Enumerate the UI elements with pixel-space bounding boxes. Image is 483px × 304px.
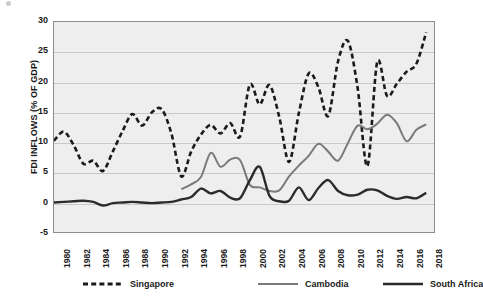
x-tick-label: 2018 [434,249,444,268]
legend-swatch-icon [83,279,123,289]
x-tick-label: 1988 [140,249,150,268]
legend-swatch-icon [258,279,298,289]
x-tick-label: 1982 [82,249,92,268]
x-tick-label: 2000 [258,249,268,268]
x-tick-label: 2008 [336,249,346,268]
plot-area [53,21,435,233]
x-tick-label: 1994 [199,249,209,268]
x-tick-label: 2014 [395,249,405,268]
y-tick-label: -5 [20,227,48,237]
legend-label: Singapore [130,279,174,289]
x-tick-label: 2004 [297,249,307,268]
x-tick-label: 2010 [356,249,366,268]
x-tick-label: 2006 [317,249,327,268]
x-tick-label: 1996 [219,249,229,268]
x-axis-tick-labels: 1980198219841986198819901992199419961998… [53,234,435,270]
x-tick-label: 1984 [101,249,111,268]
legend-entry-cambodia[interactable]: Cambodia [258,276,349,292]
y-tick-label: 10 [20,136,48,146]
x-tick-label: 2016 [415,249,425,268]
y-tick-label: 25 [20,45,48,55]
x-tick-label: 1986 [121,249,131,268]
series-line-south-africa [54,166,426,205]
y-tick-label: 20 [20,76,48,86]
y-tick-label: 30 [20,15,48,25]
x-tick-label: 1980 [62,249,72,268]
y-tick-label: 5 [20,166,48,176]
legend-label: South Africa [430,279,483,289]
legend-swatch-icon [383,279,423,289]
y-tick-label: 0 [20,197,48,207]
y-tick-label: 15 [20,106,48,116]
series-lines [54,22,435,233]
legend-entry-singapore[interactable]: Singapore [83,276,174,292]
x-tick-label: 1990 [160,249,170,268]
x-tick-label: 1992 [180,249,190,268]
x-tick-label: 1998 [238,249,248,268]
legend-label: Cambodia [305,279,349,289]
chart-legend: SingaporeCambodiaSouth Africa [53,276,435,296]
y-axis-tick-labels: 302520151050-5 [20,20,48,232]
series-line-singapore [54,32,426,176]
series-line-cambodia [181,115,426,192]
x-tick-label: 2012 [375,249,385,268]
legend-entry-south-africa[interactable]: South Africa [383,276,483,292]
x-tick-label: 2002 [277,249,287,268]
scan-artifact [6,1,11,6]
